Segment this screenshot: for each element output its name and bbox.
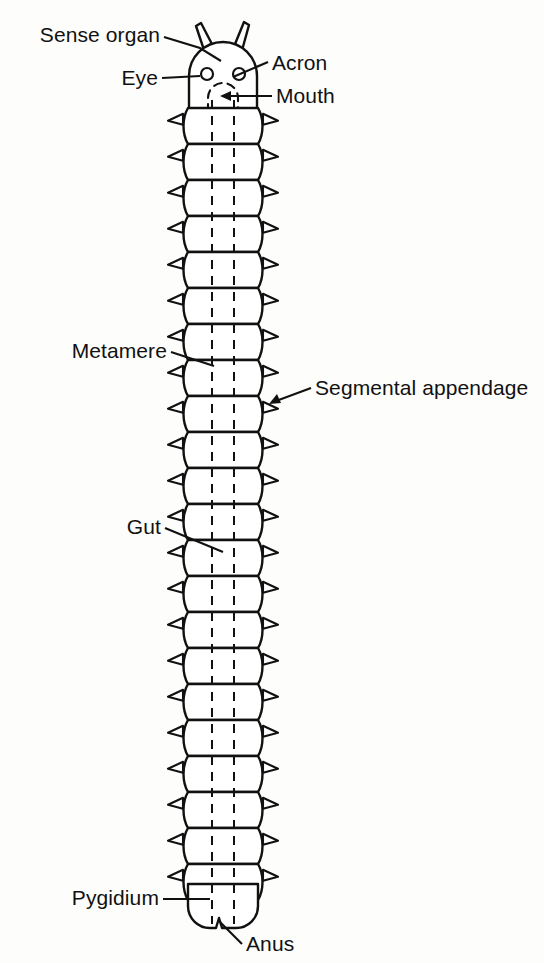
segmental-appendage — [168, 294, 183, 305]
label-sense-organ-text: Sense organ — [40, 23, 160, 46]
segmental-appendage — [263, 186, 278, 197]
arrowhead-segmental-appendage — [269, 394, 281, 404]
segmental-appendage — [168, 330, 183, 341]
metamere — [184, 108, 263, 144]
segmental-appendage — [263, 726, 278, 737]
metamere — [184, 792, 263, 828]
label-gut-text: Gut — [127, 515, 161, 538]
segmental-appendage — [168, 870, 183, 881]
metamere — [184, 756, 263, 792]
segmental-appendage — [263, 474, 278, 485]
pygidium-shape — [188, 884, 258, 928]
organism-body — [168, 22, 278, 928]
metamere — [184, 576, 263, 612]
segmental-appendage — [168, 690, 183, 701]
label-anus-text: Anus — [246, 932, 294, 955]
segmental-appendage — [263, 114, 278, 125]
label-segmental-appendage-text: Segmental appendage — [315, 376, 528, 399]
label-group: Sense organ Acron Eye Mouth Metamer — [40, 23, 528, 955]
segmental-appendage — [263, 330, 278, 341]
segmental-appendage — [263, 222, 278, 233]
segmental-appendage — [168, 762, 183, 773]
label-mouth-text: Mouth — [276, 84, 335, 107]
segmental-appendage — [168, 474, 183, 485]
segmental-appendage — [168, 366, 183, 377]
label-sense-organ: Sense organ — [40, 23, 221, 61]
segmental-appendage — [263, 150, 278, 161]
metamere — [184, 144, 263, 180]
metamere — [184, 396, 263, 432]
segmental-appendage — [168, 726, 183, 737]
anatomy-figure: Generalized segmented arthropod body pla… — [0, 0, 544, 963]
segmental-appendage — [168, 186, 183, 197]
metamere — [184, 684, 263, 720]
segmental-appendage — [263, 618, 278, 629]
label-pygidium-text: Pygidium — [72, 886, 159, 909]
segmental-appendage — [263, 258, 278, 269]
segmental-appendage — [168, 438, 183, 449]
metamere — [184, 216, 263, 252]
segmental-appendage — [263, 294, 278, 305]
metamere — [184, 252, 263, 288]
segmental-appendage — [263, 690, 278, 701]
segmental-appendage — [168, 546, 183, 557]
metamere — [184, 432, 263, 468]
segmental-appendage — [168, 114, 183, 125]
segmental-appendage — [263, 546, 278, 557]
segmental-appendage — [168, 150, 183, 161]
segmental-appendage — [168, 402, 183, 413]
segmental-appendage — [263, 798, 278, 809]
metamere — [184, 504, 263, 540]
segmental-appendage — [168, 618, 183, 629]
label-eye-text: Eye — [122, 66, 159, 89]
segmental-appendage — [168, 258, 183, 269]
metamere — [184, 612, 263, 648]
segmental-appendage — [263, 582, 278, 593]
label-metamere-text: Metamere — [72, 339, 167, 362]
metamere-group — [184, 108, 263, 900]
metamere — [184, 468, 263, 504]
metamere — [184, 648, 263, 684]
segmental-appendage — [263, 654, 278, 665]
metamere — [184, 540, 263, 576]
segmental-appendage — [168, 834, 183, 845]
metamere — [184, 828, 263, 864]
metamere — [184, 180, 263, 216]
segmental-appendage — [263, 510, 278, 521]
segmental-appendage — [263, 438, 278, 449]
metamere — [184, 360, 263, 396]
segmental-appendage — [168, 582, 183, 593]
arthropod-body-plan-diagram: Generalized segmented arthropod body pla… — [0, 0, 544, 963]
segmental-appendage — [168, 222, 183, 233]
metamere — [184, 324, 263, 360]
segmental-appendage — [168, 654, 183, 665]
metamere — [184, 720, 263, 756]
segmental-appendage — [263, 870, 278, 881]
metamere — [184, 288, 263, 324]
segmental-appendage — [263, 834, 278, 845]
segmental-appendage — [168, 798, 183, 809]
segmental-appendage — [263, 366, 278, 377]
label-segmental-appendage: Segmental appendage — [269, 376, 528, 404]
eye-icon-left — [201, 68, 213, 80]
segmental-appendage — [263, 762, 278, 773]
leader-segmental-appendage — [276, 388, 311, 401]
segmental-appendage — [168, 510, 183, 521]
label-acron-text: Acron — [272, 51, 327, 74]
